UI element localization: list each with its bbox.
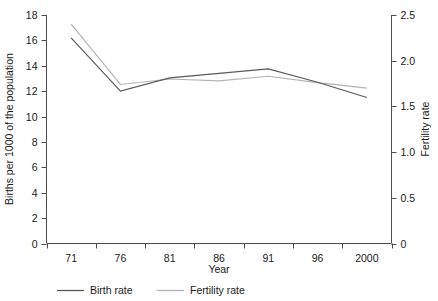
dual-axis-line-chart: 024681012141618 Births per 1000 of the p… [0,0,438,301]
right-tick-label: 0.5 [401,192,416,204]
right-axis-title: Fertility rate [419,101,431,156]
right-tick-label: 0 [401,238,407,250]
legend-label-fertility-rate: Fertility rate [190,284,245,296]
x-tick-label: 76 [115,252,127,264]
left-tick-label: 4 [32,187,38,199]
right-tick-label: 1.5 [401,100,416,112]
x-tick-label: 91 [262,252,274,264]
x-tick-label: 96 [312,252,324,264]
left-tick-label: 12 [26,85,38,97]
right-tick-label: 2.0 [401,55,416,67]
left-tick-label: 0 [32,238,38,250]
right-tick-label: 2.5 [401,9,416,21]
left-tick-label: 18 [26,9,38,21]
left-tick-label: 14 [26,60,38,72]
x-tick-label: 81 [164,252,176,264]
x-tick-label: 86 [213,252,225,264]
x-tick-label: 2000 [355,252,379,264]
left-tick-label: 8 [32,136,38,148]
legend-label-birth-rate: Birth rate [90,284,133,296]
left-tick-label: 6 [32,161,38,173]
right-tick-label: 1.0 [401,146,416,158]
x-axis-title: Year [208,263,230,275]
chart-figure: 024681012141618 Births per 1000 of the p… [0,0,438,301]
left-tick-label: 10 [26,111,38,123]
left-tick-label: 2 [32,212,38,224]
x-tick-label: 71 [65,252,77,264]
left-axis-title: Births per 1000 of the population [3,53,15,205]
left-tick-label: 16 [26,34,38,46]
